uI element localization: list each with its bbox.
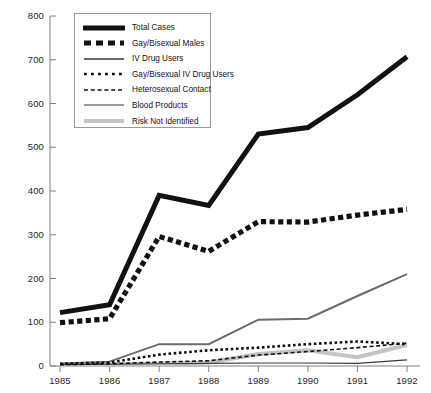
chart-legend: Total CasesGay/Bisexual MalesIV Drug Use… — [74, 13, 211, 128]
line-chart: 0100200300400500600700800 19851986198719… — [0, 0, 431, 393]
legend-swatch-icon — [83, 84, 125, 96]
legend-label: Blood Products — [132, 101, 188, 110]
legend-label: Total Cases — [132, 23, 175, 32]
legend-swatch-icon — [83, 99, 125, 111]
legend-item: IV Drug Users — [83, 51, 204, 66]
y-axis-tick-label: 400 — [14, 185, 44, 196]
legend-swatch-icon — [83, 53, 125, 65]
y-axis-tick-label: 700 — [14, 54, 44, 65]
y-axis-tick-label: 800 — [14, 10, 44, 21]
x-axis-tick-label: 1988 — [189, 375, 229, 386]
legend-item: Total Cases — [83, 20, 204, 35]
legend-label: IV Drug Users — [132, 54, 183, 63]
legend-swatch-icon — [83, 68, 125, 80]
legend-label: Gay/Bisexual IV Drug Users — [132, 70, 234, 79]
chart-plot-area — [0, 0, 431, 393]
legend-label: Gay/Bisexual Males — [132, 39, 204, 48]
legend-item: Gay/Bisexual Males — [83, 36, 204, 51]
series-line — [60, 274, 407, 363]
legend-item: Blood Products — [83, 98, 204, 113]
x-axis-tick-label: 1989 — [238, 375, 278, 386]
legend-swatch-icon — [83, 37, 125, 49]
legend-label: Risk Not Identified — [132, 117, 198, 126]
series-line — [60, 209, 407, 322]
legend-swatch-icon — [83, 22, 125, 34]
y-axis-tick-label: 0 — [14, 360, 44, 371]
legend-item: Heterosexual Contact — [83, 82, 204, 97]
y-axis-tick-label: 600 — [14, 98, 44, 109]
x-axis-tick-label: 1985 — [40, 375, 80, 386]
legend-label: Heterosexual Contact — [132, 85, 211, 94]
x-axis-tick-label: 1991 — [337, 375, 377, 386]
x-axis-tick-label: 1992 — [387, 375, 427, 386]
y-axis-tick-label: 100 — [14, 316, 44, 327]
legend-swatch-icon — [83, 115, 125, 127]
y-axis-tick-label: 200 — [14, 273, 44, 284]
x-axis-tick-label: 1986 — [90, 375, 130, 386]
x-axis-tick-label: 1990 — [288, 375, 328, 386]
legend-item: Gay/Bisexual IV Drug Users — [83, 67, 204, 82]
legend-item: Risk Not Identified — [83, 114, 204, 129]
y-axis-tick-label: 300 — [14, 229, 44, 240]
x-axis-tick-label: 1987 — [139, 375, 179, 386]
y-axis-tick-label: 500 — [14, 141, 44, 152]
